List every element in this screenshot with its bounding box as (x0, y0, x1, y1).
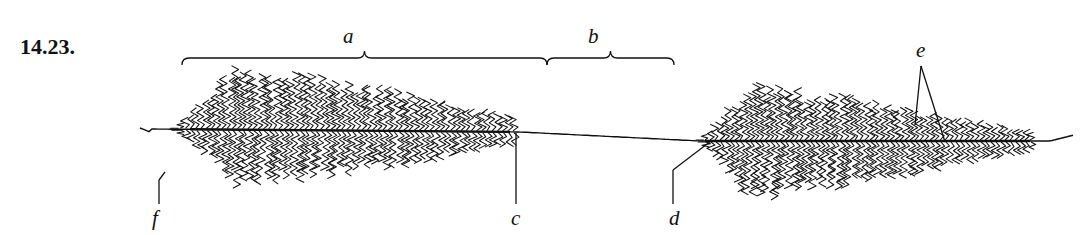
fiber-diagram (0, 0, 1089, 235)
braces (182, 51, 674, 65)
left-fibril-brush (171, 66, 520, 189)
label-e: e (916, 40, 925, 61)
figure-number: 14.23. (20, 34, 75, 60)
label-f: f (152, 208, 158, 229)
label-a: a (343, 26, 354, 47)
label-b: b (588, 26, 599, 47)
label-d: d (669, 208, 680, 229)
label-c: c (511, 208, 520, 229)
